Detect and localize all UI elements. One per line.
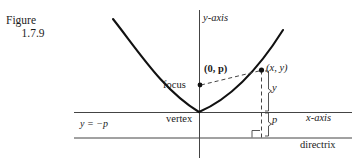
x-axis-label: x-axis (306, 112, 331, 123)
curve-point-coordinates-label: (x, y) (266, 62, 288, 73)
vertex-label: vertex (166, 113, 192, 124)
parabola-curve (113, 19, 283, 112)
distance-y-label: y (272, 82, 277, 93)
focus-label: focus (163, 79, 186, 90)
directrix-equation-label: y = −p (80, 118, 108, 129)
brace-y (265, 71, 272, 111)
focus-point-dot (198, 83, 203, 88)
brace-p (265, 113, 272, 136)
curve-point-dot (259, 67, 264, 72)
figure-canvas: Figure 1.7.9 y-axis x-axis directrix foc… (0, 0, 356, 165)
y-axis-label: y-axis (203, 12, 228, 23)
right-angle-marker (252, 131, 260, 138)
distance-p-label: p (272, 114, 277, 125)
directrix-label: directrix (300, 139, 336, 150)
focus-coordinates-label: (0, p) (204, 63, 227, 74)
